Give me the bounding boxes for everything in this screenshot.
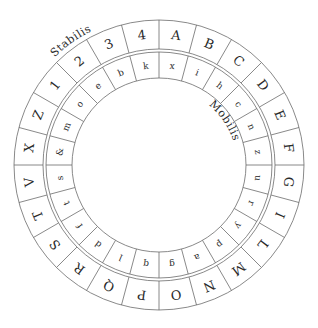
outer-divider bbox=[19, 127, 47, 135]
inner-letter: r bbox=[246, 199, 257, 207]
inner-letter: u bbox=[253, 175, 264, 182]
inner-divider bbox=[234, 109, 257, 122]
inner-letter: t bbox=[61, 199, 72, 207]
inner-letter: a bbox=[192, 252, 201, 264]
outer-letter: G bbox=[281, 176, 297, 188]
outer-divider bbox=[259, 223, 284, 238]
inner-letter: l bbox=[117, 252, 124, 262]
outer-letter: I bbox=[272, 210, 288, 220]
stabilis-label: Stabilis bbox=[48, 22, 93, 59]
inner-letter: k bbox=[143, 60, 150, 71]
inner-letter: d bbox=[93, 238, 104, 250]
outer-divider bbox=[271, 195, 299, 203]
segment-dividers bbox=[14, 20, 304, 310]
inner-divider bbox=[221, 85, 239, 103]
inner-divider bbox=[61, 109, 84, 122]
inner-letter: m bbox=[60, 120, 73, 132]
inner-divider bbox=[203, 67, 216, 90]
inner-letter: b bbox=[116, 67, 125, 79]
outer-letter: 1 bbox=[47, 77, 64, 93]
inner-letter: q bbox=[142, 259, 149, 270]
inner-divider bbox=[243, 188, 268, 195]
outer-letter: L bbox=[254, 237, 271, 253]
inner-letter: n bbox=[246, 122, 258, 131]
outer-letter: R bbox=[70, 259, 88, 278]
outer-divider bbox=[19, 195, 47, 203]
outer-letter: O bbox=[170, 287, 183, 303]
inner-letter: c bbox=[233, 99, 244, 109]
inner-divider bbox=[61, 209, 84, 222]
outer-letter: A bbox=[169, 27, 182, 43]
outer-letter: F bbox=[281, 142, 297, 153]
outer-letter: E bbox=[271, 108, 288, 123]
inner-letter: e bbox=[93, 80, 103, 91]
outer-divider bbox=[259, 93, 284, 108]
outer-divider bbox=[217, 39, 232, 64]
inner-letter: i bbox=[194, 67, 201, 77]
outer-letter: M bbox=[229, 259, 249, 279]
inner-divider bbox=[203, 240, 216, 263]
inner-letter: h bbox=[215, 80, 226, 92]
inner-divider bbox=[130, 56, 137, 81]
outer-divider bbox=[189, 25, 197, 53]
inner-divider bbox=[79, 227, 97, 245]
outer-divider bbox=[121, 25, 129, 53]
outer-divider bbox=[217, 265, 232, 290]
inner-letter: & bbox=[54, 147, 65, 156]
inner-letter: z bbox=[253, 149, 264, 155]
outer-divider bbox=[87, 265, 102, 290]
outer-letter: V bbox=[21, 176, 37, 189]
outer-letter: D bbox=[254, 77, 272, 94]
outer-letter: N bbox=[201, 277, 217, 295]
outer-divider bbox=[189, 277, 197, 305]
outer-letter: 2 bbox=[71, 53, 87, 70]
inner-letter: f bbox=[74, 221, 84, 230]
inner-letter: y bbox=[232, 220, 244, 232]
outer-letter: P bbox=[136, 287, 147, 303]
outer-letter: Z bbox=[29, 108, 46, 122]
inner-divider bbox=[79, 85, 97, 103]
outer-divider bbox=[56, 247, 77, 268]
inner-divider bbox=[50, 136, 75, 143]
outer-divider bbox=[56, 62, 77, 83]
outer-letter: 4 bbox=[137, 27, 147, 43]
outer-divider bbox=[87, 39, 102, 64]
cipher-disk: ABCDEFGILMNOPQRSTVXZ1234 xihcnzurypagqld… bbox=[0, 0, 318, 328]
inner-divider bbox=[234, 209, 257, 222]
inner-letter: o bbox=[74, 99, 85, 109]
inner-divider bbox=[182, 56, 189, 81]
outer-letter: X bbox=[21, 142, 37, 154]
inner-letter: p bbox=[214, 239, 225, 251]
outer-divider bbox=[33, 223, 58, 238]
outer-letter: S bbox=[46, 237, 63, 253]
outer-letter: T bbox=[29, 208, 46, 222]
outer-letter: 3 bbox=[102, 35, 115, 52]
inner-divider bbox=[103, 240, 116, 263]
inner-divider bbox=[221, 227, 239, 245]
inner-divider bbox=[182, 249, 189, 274]
inner-divider bbox=[243, 136, 268, 143]
inner-divider bbox=[130, 249, 137, 274]
outer-letter: B bbox=[202, 35, 217, 53]
outer-ring-inner-edge bbox=[43, 49, 275, 281]
outer-letter: Q bbox=[101, 277, 117, 295]
inner-letter: g bbox=[168, 259, 175, 270]
stabilis-label-text: Stabilis bbox=[48, 22, 93, 59]
outer-divider bbox=[121, 277, 129, 305]
outer-letter: C bbox=[230, 52, 247, 70]
inner-divider bbox=[50, 188, 75, 195]
outer-divider bbox=[33, 93, 58, 108]
inner-letter: x bbox=[169, 61, 175, 72]
outer-divider bbox=[271, 127, 299, 135]
inner-letter: s bbox=[55, 175, 66, 181]
outer-divider bbox=[241, 62, 262, 83]
inner-divider bbox=[103, 67, 116, 90]
